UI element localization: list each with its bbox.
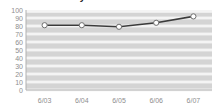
y-axis-tick-label: 50 (15, 47, 23, 54)
y-axis-tick-label: 80 (15, 23, 23, 30)
gridline (26, 49, 212, 52)
page-title: Preference history (1, 0, 85, 2)
y-axis-tick-label: 40 (15, 55, 23, 62)
y-axis-tick-label: 20 (15, 71, 23, 78)
gridline (26, 65, 212, 68)
y-axis-tick-label: 100 (11, 7, 23, 14)
y-axis-tick-label: 70 (15, 31, 23, 38)
data-point-marker[interactable] (42, 23, 47, 28)
data-point-marker[interactable] (79, 23, 84, 28)
gridline (26, 33, 212, 36)
y-axis-tick-label: 60 (15, 39, 23, 46)
y-axis-tick-labels: 1009080706050403020100 (11, 7, 23, 94)
x-axis-tick-label: 6/03 (38, 97, 52, 104)
data-point-marker[interactable] (116, 24, 121, 29)
x-axis-tick-label: 6/07 (187, 97, 201, 104)
x-axis-tick-label: 6/04 (75, 97, 89, 104)
chart-widget: Preference history 100908070605040302010… (0, 0, 218, 112)
gridline (26, 81, 212, 84)
gridline (26, 57, 212, 60)
x-axis-tick-labels: 6/036/046/056/066/07 (38, 97, 201, 104)
y-axis-tick-label: 30 (15, 63, 23, 70)
gridline (26, 10, 212, 13)
line-chart: 1009080706050403020100 6/036/046/056/066… (0, 5, 218, 112)
data-point-marker[interactable] (191, 14, 196, 19)
y-axis-tick-label: 90 (15, 15, 23, 22)
x-axis-tick-label: 6/06 (149, 97, 163, 104)
chart-canvas: 1009080706050403020100 6/036/046/056/066… (0, 5, 218, 112)
y-axis-tick-label: 10 (15, 79, 23, 86)
y-axis-tick-label: 0 (19, 87, 23, 94)
gridline (26, 73, 212, 76)
widget-title-bar: Preference history (0, 0, 218, 4)
gridline (26, 41, 212, 44)
x-axis-tick-label: 6/05 (112, 97, 126, 104)
data-point-marker[interactable] (154, 20, 159, 25)
